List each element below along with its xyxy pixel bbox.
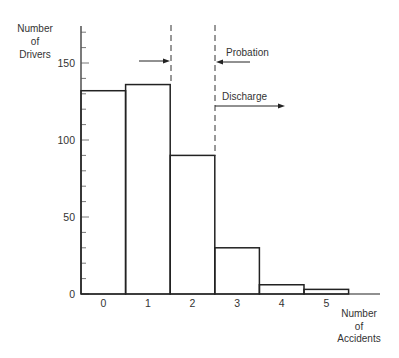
x-axis: 012345 [81,294,380,309]
x-tick-label: 2 [190,297,196,309]
histogram-bar [81,91,126,294]
x-axis-label: Number of Accidents [337,308,380,344]
x-tick-label: 5 [323,297,329,309]
discharge-annotation: Discharge [215,91,285,109]
y-axis-label-line3: Drivers [19,49,51,60]
histogram-bar [170,155,215,294]
x-tick-label: 1 [145,297,151,309]
histogram-bar [304,289,349,294]
discharge-label: Discharge [222,91,267,102]
probation-label: Probation [226,47,269,58]
y-tick-label: 50 [63,211,75,223]
y-axis-label-line2: of [31,36,40,47]
y-tick-label: 150 [57,57,75,69]
x-axis-label-line1: Number [341,308,377,319]
y-axis: 050100150 [57,26,89,300]
x-axis-label-line3: Accidents [337,333,380,344]
y-tick-label: 0 [69,288,75,300]
histogram-chart: Number of Drivers 050100150 012345 Proba… [0,0,399,358]
histogram-bar [259,285,304,294]
histogram-bar [126,85,171,294]
y-axis-label-line1: Number [17,23,53,34]
y-tick-label: 100 [57,134,75,146]
x-axis-label-line2: of [355,321,364,332]
histogram-bar [215,248,260,294]
arrow-right-icon [139,59,170,64]
arrow-left-icon [216,60,223,65]
x-tick-label: 0 [100,297,106,309]
arrow-right-icon [278,104,285,109]
probation-annotation: Probation [216,47,269,65]
x-tick-label: 4 [279,297,285,309]
y-axis-label: Number of Drivers [17,23,53,60]
x-tick-label: 3 [234,297,240,309]
